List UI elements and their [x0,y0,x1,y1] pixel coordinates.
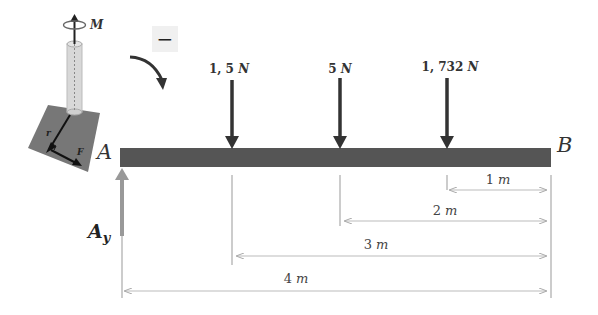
load-label-1: 1, 5 N [209,62,249,76]
load-label-2: 5 N [328,62,352,76]
reaction-ay-label: Ay [88,220,110,245]
point-a-label: A [97,140,112,164]
radius-label: r [46,128,51,138]
force-label: F [77,147,83,157]
dimension-label-4m: 4 m [284,271,309,286]
minus-sign: − [152,26,178,52]
moment-label: M [90,18,103,32]
load-arrow-1 [225,80,239,149]
dimension-label-1m: 1 m [486,172,511,187]
diagram-canvas [0,0,598,315]
beam [120,148,551,167]
dimension-label-2m: 2 m [433,203,458,218]
load-arrow-2 [333,78,347,149]
load-arrow-3 [440,78,454,149]
torque-inset-figure [28,14,100,172]
extension-lines [122,175,551,298]
clockwise-arrow-icon [130,57,162,80]
sign-convention-box: − [152,26,178,52]
point-b-label: B [557,133,572,157]
load-label-3: 1, 732 N [422,60,479,74]
base-plate [28,105,100,172]
dimension-label-3m: 3 m [364,237,389,252]
